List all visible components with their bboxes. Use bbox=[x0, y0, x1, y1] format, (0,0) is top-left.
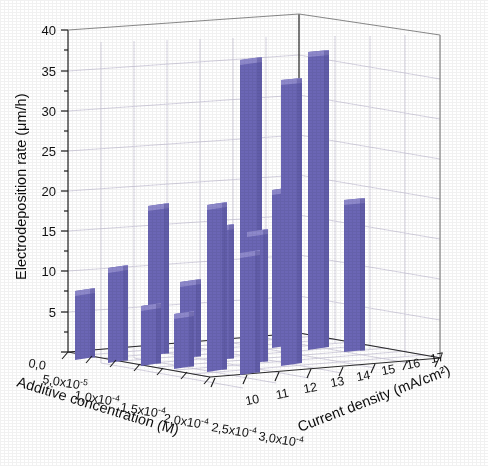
bar-b14 bbox=[308, 50, 329, 350]
y-axis-title: Electrodeposition rate (μm/h) bbox=[13, 94, 29, 280]
bar-b05 bbox=[207, 202, 227, 372]
z-tick-label: 14 bbox=[355, 368, 371, 384]
z-tick-label: 15 bbox=[380, 362, 396, 378]
y-tick-label: 30 bbox=[42, 104, 56, 119]
bar-b11 bbox=[281, 78, 302, 366]
y-tick-label: 25 bbox=[42, 144, 56, 159]
x-tick-label: 2,5x10-4 bbox=[211, 418, 258, 441]
y-tick-label: 35 bbox=[42, 64, 56, 79]
bar-b01 bbox=[75, 288, 95, 360]
y-tick-label: 40 bbox=[42, 23, 56, 38]
x-tick-label: 0,0 bbox=[28, 356, 47, 373]
bars-layer bbox=[75, 50, 365, 375]
y-tick-label: 10 bbox=[42, 264, 56, 279]
z-tick-label: 16 bbox=[405, 356, 421, 372]
figure-3d-bar-chart: 40 35 30 25 20 15 10 5 bbox=[0, 0, 488, 466]
plot-svg: 40 35 30 25 20 15 10 5 bbox=[0, 0, 488, 466]
x-tick-label: 3,0x10-4 bbox=[258, 427, 305, 450]
bar-b15 bbox=[344, 198, 365, 352]
y-tick-label: 20 bbox=[42, 184, 56, 199]
bar-b02 bbox=[108, 265, 128, 363]
bar-b03 bbox=[141, 303, 161, 366]
z-tick-label: 13 bbox=[329, 374, 345, 390]
y-axis-tick-labels: 40 35 30 25 20 15 10 5 bbox=[42, 23, 56, 320]
bar-b06 bbox=[240, 250, 260, 375]
bar-b04 bbox=[174, 311, 194, 369]
z-tick-label: 10 bbox=[244, 392, 260, 408]
y-axis-ticks bbox=[61, 30, 68, 352]
y-tick-label: 15 bbox=[42, 224, 56, 239]
z-tick-label: 12 bbox=[302, 380, 318, 396]
z-tick-label: 11 bbox=[275, 386, 290, 402]
y-tick-label: 5 bbox=[49, 305, 56, 320]
z-axis-title: Current density (mA/cm²) bbox=[295, 362, 452, 435]
